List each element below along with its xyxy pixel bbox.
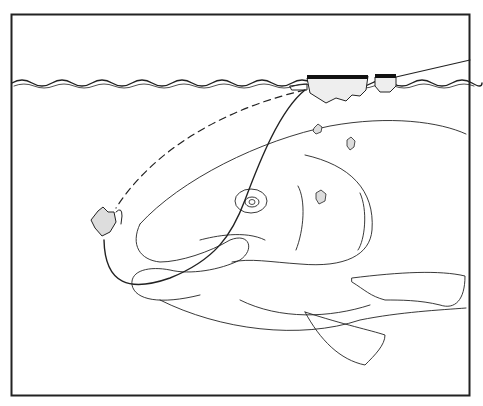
frame: [12, 15, 470, 396]
fishing-line: [104, 90, 305, 284]
illustration: [0, 0, 483, 406]
fish: [132, 121, 466, 365]
mouth: [132, 224, 249, 300]
slack-line-dashed: [116, 90, 305, 208]
hook-with-bait: [91, 207, 122, 236]
pelvic-fin: [305, 312, 385, 365]
floating-bait-clumps: [290, 60, 470, 103]
crumbs: [313, 124, 355, 204]
pectoral-fin: [352, 272, 465, 306]
water-surface: [12, 80, 482, 88]
eye: [235, 189, 267, 213]
